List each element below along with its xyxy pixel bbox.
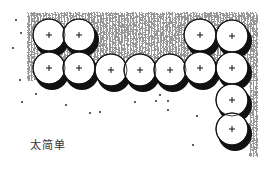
caption-label: 太简单 (30, 136, 66, 152)
